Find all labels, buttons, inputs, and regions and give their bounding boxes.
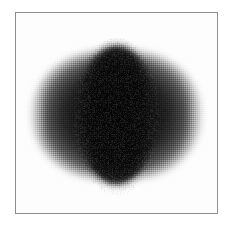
figure-root [0,0,234,231]
core-nucleus-region [86,61,146,169]
plot-frame [15,12,218,214]
intensity-field-canvas [16,13,217,213]
